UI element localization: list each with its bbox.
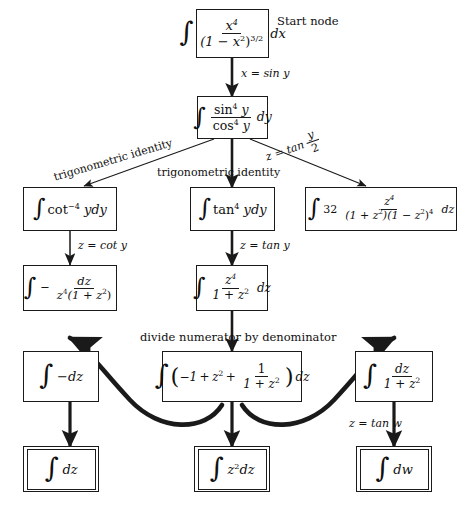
integral-sign-icon: ∫ — [193, 108, 206, 126]
expanded-frac-numerator: 1 — [255, 363, 269, 377]
expanded-differential: dz — [296, 371, 310, 383]
expanded-plus1: + — [197, 371, 212, 383]
integral-sign-icon: ∫ — [33, 199, 46, 217]
node-terminal-dz[interactable]: ∫ dz — [23, 446, 99, 492]
integral-sign-icon: ∫ — [39, 365, 53, 385]
tansub-denominator: 1 + z2 — [210, 289, 252, 302]
node-start[interactable]: ∫ x4 (1 − x2)3/2 dx — [196, 9, 269, 58]
node-expanded[interactable]: ∫ ( −1 + z2 + 1 1 + z2 ) dz — [162, 351, 302, 402]
integral-sign-icon: ∫ — [179, 22, 193, 42]
negdz-body: −dz — [57, 370, 83, 383]
node-sin-cos[interactable]: ∫ sin4 y cos4 y dy — [197, 96, 268, 139]
integral-sign-icon: ∫ — [308, 199, 321, 217]
node-tan[interactable]: ∫ tan4 ydy — [190, 187, 275, 231]
cot-body: cot−4 ydy — [48, 203, 107, 216]
start-numerator: x4 — [222, 19, 240, 34]
terminal-dz-body: dz — [62, 463, 77, 476]
node-cot[interactable]: ∫ cot−4 ydy — [23, 187, 117, 231]
edge-label-z-eq-tan-w: z = tan w — [349, 418, 402, 429]
expanded-term2: z2 — [212, 371, 223, 383]
left-paren: ( — [171, 370, 180, 384]
sincos-differential: dy — [257, 111, 272, 124]
integral-sign-icon: ∫ — [154, 365, 168, 385]
start-node-caption: Start node — [277, 14, 339, 28]
terminal-z2dz-body: z2dz — [227, 463, 254, 476]
node-arctan[interactable]: ∫ dz 1 + z2 — [355, 351, 433, 402]
cotsub-denominator: z4(1 + z2) — [54, 289, 114, 302]
sincos-numerator: sin4 y — [211, 103, 251, 118]
weier-differential: dz — [441, 204, 454, 215]
node-weierstrass[interactable]: ∫ 32 z4 (1 + z2)(1 − z2)4 dz — [305, 187, 457, 231]
sincos-denominator: cos4 y — [210, 118, 253, 132]
edge-label-z-eq-tan-y: z = tan y — [240, 240, 290, 251]
expanded-term1: −1 — [179, 371, 197, 383]
node-tan-substituted[interactable]: ∫ z4 1 + z2 dz — [196, 265, 268, 311]
start-denominator: (1 − x2)3/2 — [197, 34, 266, 48]
edge-label-z-eq-cot-y: z = cot y — [78, 240, 127, 251]
integral-sign-icon: ∫ — [193, 278, 206, 296]
node-terminal-z2dz[interactable]: ∫ z2dz — [194, 446, 270, 492]
integral-sign-icon: ∫ — [375, 458, 389, 478]
flowchart-diagram: ∫ x4 (1 − x2)3/2 dx Start node x = sin y… — [0, 0, 465, 508]
edge-label-trig-identity-center: trigonometric identity — [157, 167, 280, 178]
tansub-numerator: z4 — [222, 274, 239, 288]
arctan-denominator: 1 + z2 — [381, 377, 423, 390]
tansub-differential: dz — [257, 282, 271, 294]
weier-denominator: (1 + z2)(1 − z2)4 — [342, 210, 436, 222]
integral-sign-icon: ∫ — [363, 365, 377, 385]
terminal-dw-body: dw — [393, 463, 412, 476]
start-differential: dx — [270, 27, 286, 40]
tan-body: tan4 ydy — [213, 203, 267, 216]
node-terminal-dw[interactable]: ∫ dw — [356, 446, 432, 492]
node-cot-substituted[interactable]: ∫ − dz z4(1 + z2) — [23, 265, 117, 311]
weier-coefficient: 32 — [323, 204, 337, 215]
expanded-plus2: + — [223, 371, 238, 383]
arctan-numerator: dz — [392, 363, 412, 377]
weier-numerator: z4 — [381, 196, 397, 209]
integral-sign-icon: ∫ — [209, 458, 223, 478]
expanded-frac-denominator: 1 + z2 — [240, 377, 282, 390]
cotsub-numerator: dz — [74, 275, 93, 289]
edge-label-x-eq-sin-y: x = sin y — [241, 68, 289, 79]
node-neg-dz[interactable]: ∫ −dz — [23, 351, 99, 402]
edge-layer — [0, 0, 465, 508]
integral-sign-icon: ∫ — [44, 458, 58, 478]
integral-sign-icon: ∫ — [24, 278, 37, 296]
edge-label-divide-numerator: divide numerator by denominator — [140, 330, 337, 344]
right-paren: ) — [285, 370, 294, 384]
integral-sign-icon: ∫ — [198, 199, 211, 217]
cotsub-minus: − — [40, 282, 50, 294]
